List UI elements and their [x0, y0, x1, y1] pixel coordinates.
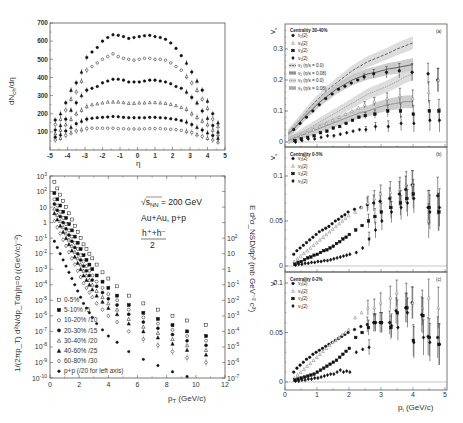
data-point	[116, 299, 119, 302]
data-point	[64, 134, 67, 137]
data-point	[397, 326, 400, 329]
tick-label: 0.1	[273, 172, 283, 179]
data-point	[101, 40, 104, 43]
data-point	[156, 322, 159, 325]
data-point	[143, 57, 146, 60]
data-point	[349, 253, 352, 256]
data-point	[164, 102, 167, 105]
data-point	[106, 100, 109, 103]
data-point	[112, 78, 115, 81]
data-point	[307, 262, 310, 265]
vn-xlabel: pt (GeV/c)	[398, 403, 434, 413]
data-point	[180, 54, 183, 57]
data-point	[107, 286, 110, 289]
data-point	[342, 238, 345, 241]
data-point	[354, 336, 357, 339]
data-point	[412, 113, 415, 116]
data-point	[365, 128, 368, 131]
data-point	[76, 230, 79, 233]
data-point	[345, 122, 348, 125]
data-point	[67, 243, 70, 246]
data-point	[91, 257, 94, 260]
pt-spectra-ylabel-right: E d³σ_NSD/dp³ (mb GeV⁻² c³)	[248, 205, 257, 313]
data-point	[348, 347, 351, 350]
data-point	[322, 367, 325, 370]
data-point	[344, 85, 347, 88]
data-point	[185, 75, 188, 78]
data-point	[428, 336, 431, 339]
data-point	[211, 118, 214, 121]
data-point	[389, 296, 392, 299]
data-point	[148, 34, 151, 37]
data-point	[115, 312, 118, 315]
data-point	[95, 280, 98, 283]
data-point	[339, 255, 342, 258]
data-point	[138, 35, 141, 38]
data-point	[65, 206, 68, 209]
data-point	[59, 210, 62, 213]
data-point	[293, 260, 296, 263]
data-point	[142, 330, 145, 333]
tick-label: 5	[443, 391, 447, 398]
data-point	[292, 164, 295, 167]
dn-deta-panel: -5-4-3-2-1012345100200300400500600700 η …	[7, 19, 227, 168]
data-point	[91, 268, 94, 271]
data-point	[190, 123, 193, 126]
tick-label: 700	[37, 19, 48, 26]
data-point	[390, 206, 393, 209]
data-point	[122, 57, 125, 60]
data-point	[201, 135, 204, 138]
data-point	[313, 135, 316, 138]
data-point	[82, 274, 85, 277]
data-point	[201, 98, 204, 101]
tick-label: 2	[347, 391, 351, 398]
data-point	[332, 245, 335, 248]
data-point	[85, 56, 88, 59]
data-point	[138, 128, 141, 131]
data-point	[319, 369, 322, 372]
data-point	[312, 110, 315, 113]
data-point	[142, 316, 145, 319]
data-point	[156, 308, 159, 311]
data-point	[70, 126, 73, 129]
data-point	[352, 129, 355, 132]
data-point	[115, 308, 118, 311]
data-point	[313, 373, 316, 376]
data-point	[127, 308, 130, 311]
data-point	[340, 215, 343, 218]
data-point	[355, 251, 358, 254]
pt-spectra-ticks: 02468101210-1010-710-910-610-810-510-710…	[32, 171, 239, 389]
tick-label: 10-6	[35, 310, 47, 319]
data-point	[159, 36, 162, 39]
data-point	[201, 119, 204, 122]
data-point	[292, 56, 295, 59]
data-point	[347, 211, 350, 214]
data-point	[320, 260, 323, 263]
data-point	[398, 94, 401, 97]
data-point	[387, 125, 390, 128]
right-tick-label: 10	[227, 250, 235, 257]
data-point	[64, 109, 67, 112]
data-point	[88, 274, 91, 277]
data-point	[354, 316, 357, 319]
data-point	[326, 373, 329, 376]
data-point	[64, 123, 67, 126]
data-point	[399, 110, 402, 113]
data-point	[292, 289, 295, 292]
data-point	[342, 353, 345, 356]
data-point	[319, 251, 322, 254]
dn-deta-points	[54, 33, 220, 144]
data-point	[310, 261, 313, 264]
tick-label: 200	[37, 110, 48, 117]
data-point	[315, 241, 318, 244]
data-point	[326, 365, 329, 368]
right-tick-label: 102	[227, 233, 238, 242]
data-point	[318, 104, 321, 107]
data-point	[171, 350, 174, 354]
data-point	[65, 223, 68, 226]
data-point	[156, 343, 159, 347]
data-point	[349, 370, 352, 373]
data-point	[180, 87, 183, 90]
tick-label: 10-1	[35, 233, 47, 242]
data-point	[406, 197, 409, 200]
